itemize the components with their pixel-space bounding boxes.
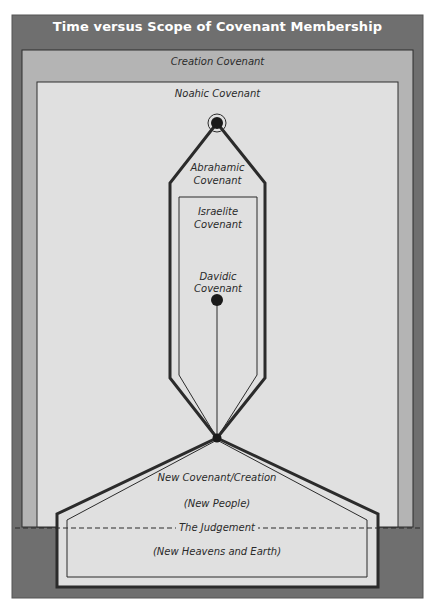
abrahamic-covenant-label-line1: Abrahamic	[170, 161, 265, 174]
judgement-label: The Judgement	[176, 521, 258, 534]
israelite-covenant-label-line1: Israelite	[179, 205, 257, 218]
israelite-covenant-label-line2: Covenant	[179, 218, 257, 231]
junction-dot	[213, 434, 222, 443]
noahic-covenant-label: Noahic Covenant	[37, 87, 398, 100]
new-people-label: (New People)	[67, 497, 367, 510]
new-heavens-label: (New Heavens and Earth)	[67, 545, 367, 558]
creation-covenant-label: Creation Covenant	[22, 55, 413, 68]
diagram-title: Time versus Scope of Covenant Membership	[12, 19, 423, 34]
davidic-covenant-label-line2: Covenant	[179, 282, 257, 295]
abrahamic-covenant-label-line2: Covenant	[170, 174, 265, 187]
davidic-dot	[211, 294, 223, 306]
origin-dot	[211, 117, 223, 129]
new-covenant-label: New Covenant/Creation	[67, 471, 367, 484]
